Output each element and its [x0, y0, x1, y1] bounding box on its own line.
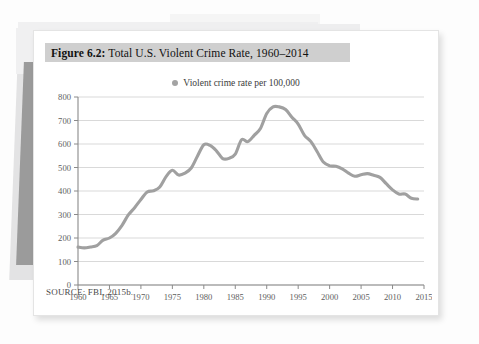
chart-plot-area: 0100200300400500600700800 19601965197019… [42, 89, 432, 311]
figure-caption-band: Figure 6.2: Total U.S. Violent Crime Rat… [45, 43, 350, 62]
figure-number-label: Figure 6.2: [51, 47, 106, 59]
svg-text:1990: 1990 [258, 292, 275, 302]
svg-text:2000: 2000 [321, 292, 338, 302]
chart-gridlines [78, 97, 424, 285]
figure-caption-title: Total U.S. Violent Crime Rate, 1960–2014 [106, 47, 309, 59]
svg-text:700: 700 [58, 116, 71, 126]
violent-crime-rate-line-chart: 0100200300400500600700800 19601965197019… [42, 89, 432, 311]
svg-text:1970: 1970 [132, 292, 149, 302]
chart-legend: Violent crime rate per 100,000 [34, 78, 438, 88]
svg-text:400: 400 [58, 186, 71, 196]
svg-text:1985: 1985 [227, 292, 244, 302]
svg-text:1995: 1995 [290, 292, 307, 302]
svg-text:800: 800 [58, 92, 71, 102]
svg-text:600: 600 [58, 139, 71, 149]
figure-source-note: SOURCE: FBI, 2015b. [46, 287, 133, 297]
chart-y-axis-ticks: 0100200300400500600700800 [58, 92, 78, 290]
chart-series-line-violent-crime-rate [78, 106, 418, 248]
svg-text:2010: 2010 [384, 292, 401, 302]
svg-text:300: 300 [58, 210, 71, 220]
svg-text:1975: 1975 [164, 292, 181, 302]
svg-text:200: 200 [58, 233, 71, 243]
svg-text:100: 100 [58, 257, 71, 267]
svg-text:1980: 1980 [195, 292, 212, 302]
svg-text:2015: 2015 [415, 292, 432, 302]
figure-card: Figure 6.2: Total U.S. Violent Crime Rat… [33, 30, 439, 316]
legend-series-label: Violent crime rate per 100,000 [183, 78, 299, 88]
legend-marker-dot-icon [172, 80, 178, 86]
svg-text:500: 500 [58, 163, 71, 173]
figure-caption-text: Figure 6.2: Total U.S. Violent Crime Rat… [51, 47, 309, 59]
svg-text:2005: 2005 [352, 292, 369, 302]
